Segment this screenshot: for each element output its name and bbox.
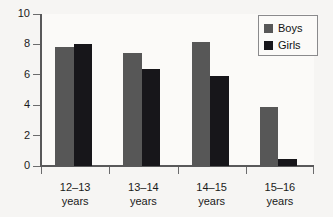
bar-boys-1 (55, 47, 74, 166)
x-axis-category-label-line: years (41, 194, 109, 208)
x-axis-category-label-line: 12–13 (41, 180, 109, 194)
legend-label-girls: Girls (278, 40, 301, 51)
bar-group (41, 14, 109, 166)
x-axis-category-label-line: years (178, 194, 246, 208)
x-axis-category-label-line: 15–16 (246, 180, 314, 194)
x-axis-tick (313, 167, 314, 174)
x-axis-category-label: 15–16years (246, 180, 314, 208)
x-axis-category-label-line: years (246, 194, 314, 208)
legend-item-boys[interactable]: Boys (264, 22, 302, 34)
bar-chart: 0246810 12–13years13–14years14–15years15… (0, 0, 333, 217)
bar-boys-2 (123, 53, 142, 166)
bar-group (178, 14, 246, 166)
x-axis-category-label: 13–14years (109, 180, 177, 208)
x-axis-tick (178, 167, 179, 174)
x-axis-category-label-line: 13–14 (109, 180, 177, 194)
legend-label-boys: Boys (278, 23, 302, 34)
x-axis-category-label-line: 14–15 (178, 180, 246, 194)
bar-girls-2 (142, 69, 161, 166)
legend-item-girls[interactable]: Girls (264, 39, 301, 51)
bar-girls-4 (278, 159, 297, 166)
x-axis-tick (109, 167, 110, 174)
bar-boys-3 (192, 42, 211, 166)
bar-girls-3 (210, 76, 229, 166)
legend: Boys Girls (258, 15, 318, 56)
x-axis-category-label: 12–13years (41, 180, 109, 208)
x-axis-category-label: 14–15years (178, 180, 246, 208)
legend-swatch-girls (264, 41, 273, 50)
bar-boys-4 (260, 107, 279, 166)
bar-group (109, 14, 177, 166)
x-axis-category-label-line: years (109, 194, 177, 208)
x-axis-tick (41, 167, 42, 174)
bar-girls-1 (74, 44, 93, 166)
x-axis-tick (246, 167, 247, 174)
legend-swatch-boys (264, 24, 273, 33)
